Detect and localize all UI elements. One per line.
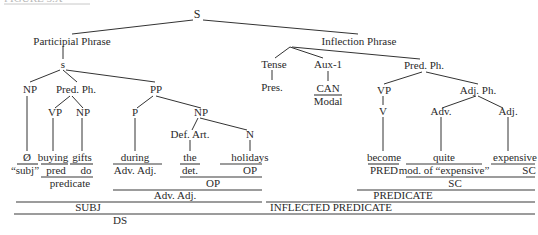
word-null-subject: Ø [23,151,31,163]
function-modal: Modal [314,95,343,107]
node-adj-ph: Adj. Ph. [460,84,497,96]
function-sc-adj-ph: SC [448,177,461,189]
figure-heading: FIGURE 5.X [4,0,90,4]
node-s-small: s [61,58,65,70]
function-predicate-upper: PREDICATE [373,189,433,201]
node-np-pp: NP [194,106,208,118]
function-labels: “subj” pred do Adv. Adj. det. OP PRED mo… [11,164,536,176]
function-subj-quoted: “subj” [11,164,39,176]
word-the: the [183,151,197,163]
node-pres: Pres. [261,81,283,93]
function-sc-expensive: SC [522,164,535,176]
word-during: during [121,151,150,163]
syntax-tree-diagram: FIGURE 5.X [0,0,538,235]
function-subj: SUBJ [75,201,101,213]
function-do: do [81,164,93,176]
word-quite: quite [433,151,455,163]
node-np-subject: NP [23,83,37,95]
node-pred-ph-left: Pred. Ph. [56,83,96,95]
node-def-art: Def. Art. [171,128,210,140]
word-can: CAN [316,82,339,94]
node-s-root: S [194,7,201,21]
function-ds: DS [113,214,127,226]
function-mod-of-expensive: mod. of “expensive” [399,164,490,176]
function-predicate-lower: predicate [50,177,90,189]
node-v: V [379,105,387,117]
node-participial-phrase: Participial Phrase [33,35,110,47]
word-gifts: gifts [72,151,92,163]
terminal-words: Ø buying gifts during the holidays becom… [23,151,537,163]
node-aux: Aux-1 [314,58,342,70]
figure-heading-text: FIGURE 5.X [4,0,63,4]
node-np-object: NP [76,106,90,118]
phrase-function-bars: predicate OP SC Adv. Adj. PREDICATE SUBJ… [14,177,535,226]
node-vp-left: VP [48,106,62,118]
node-tense: Tense [261,58,287,70]
node-adv: Adv. [431,105,452,117]
function-adv-adj-during: Adv. Adj. [114,164,157,176]
function-inflected-predicate: INFLECTED PREDICATE [270,201,392,213]
node-inflection-phrase: Inflection Phrase [322,35,397,47]
word-buying: buying [38,151,69,163]
node-pred-ph-right: Pred. Ph. [404,59,444,71]
function-det: det. [182,164,198,176]
word-expensive: expensive [493,151,537,163]
function-pred-upper: PRED [370,164,398,176]
node-pp: PP [150,83,162,95]
tree-nodes: S Participial Phrase s NP Pred. Ph. PP V… [23,7,518,140]
function-op-np: OP [206,177,220,189]
function-op-holidays: OP [243,164,257,176]
function-adv-adj-pp: Adv. Adj. [154,189,197,201]
node-vp-right: VP [377,84,391,96]
word-holidays: holidays [231,151,268,163]
aux-word-group: CAN Modal [314,82,343,107]
node-p: P [132,106,138,118]
word-become: become [367,151,401,163]
function-pred: pred [46,164,66,176]
node-adj: Adj. [498,105,518,117]
node-n: N [246,128,254,140]
